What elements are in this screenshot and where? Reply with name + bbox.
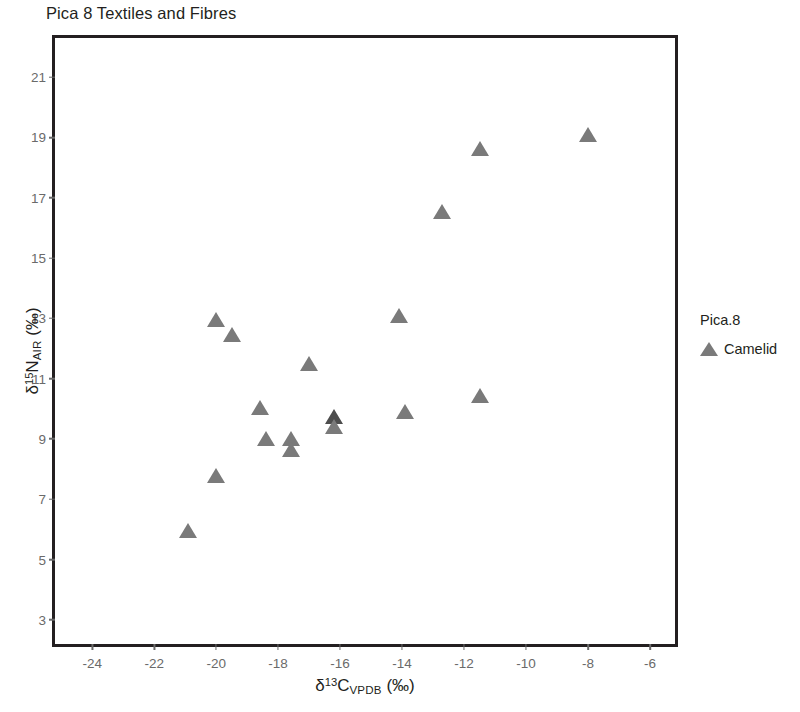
plot-area: [55, 38, 675, 644]
scatter-chart: Pica 8 Textiles and Fibres 3579111315171…: [0, 0, 800, 712]
legend-entry[interactable]: Camelid: [700, 341, 777, 357]
data-point-marker: [471, 141, 489, 156]
y-tick-label: 7: [9, 492, 55, 507]
chart-title: Pica 8 Textiles and Fibres: [46, 4, 236, 23]
data-point-marker: [433, 204, 451, 219]
plot-frame: 3579111315171921 -24-22-20-18-16-14-12-1…: [52, 35, 678, 647]
data-point-marker: [300, 356, 318, 371]
x-tick-label: -12: [454, 644, 474, 671]
data-point-marker: [179, 523, 197, 538]
triangle-marker-icon: [700, 342, 718, 356]
x-tick-label: -6: [644, 644, 656, 671]
data-point-marker: [390, 308, 408, 323]
data-point-marker: [207, 312, 225, 327]
data-point-marker: [257, 431, 275, 446]
legend: Pica.8 Camelid: [700, 312, 777, 357]
x-tick-label: -24: [82, 644, 102, 671]
legend-entries: Camelid: [700, 341, 777, 357]
data-point-marker: [579, 127, 597, 142]
x-tick-label: -22: [144, 644, 164, 671]
data-point-marker: [207, 468, 225, 483]
y-axis-label: δ15NAIR (‰): [23, 211, 43, 491]
y-tick-label: 19: [9, 130, 55, 145]
y-tick-label: 17: [9, 190, 55, 205]
legend-title: Pica.8: [700, 312, 777, 328]
x-axis-label: δ13CVPDB (‰): [52, 676, 678, 696]
data-point-marker: [282, 442, 300, 457]
data-point-marker: [396, 404, 414, 419]
y-tick-label: 21: [9, 70, 55, 85]
data-point-marker: [471, 388, 489, 403]
y-tick-label: 3: [9, 612, 55, 627]
data-point-marker: [325, 419, 343, 434]
data-point-marker: [251, 400, 269, 415]
data-point-marker: [223, 327, 241, 342]
x-tick-label: -20: [206, 644, 226, 671]
x-tick-label: -14: [392, 644, 412, 671]
x-tick-label: -16: [330, 644, 350, 671]
x-tick-label: -8: [582, 644, 594, 671]
x-tick-label: -10: [516, 644, 536, 671]
x-tick-label: -18: [268, 644, 288, 671]
legend-entry-label: Camelid: [724, 341, 777, 357]
y-tick-label: 5: [9, 552, 55, 567]
